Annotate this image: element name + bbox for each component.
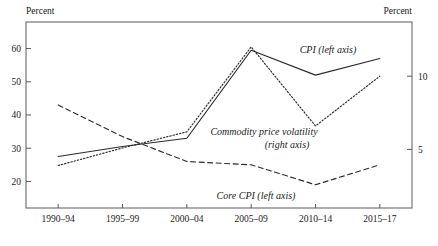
- chart-background: [0, 0, 438, 246]
- left-tick-label: 60: [12, 44, 22, 54]
- series-annotation-label: (right axis): [265, 139, 310, 151]
- left-tick-label: 50: [12, 77, 22, 87]
- x-axis-category-label: 2005–09: [235, 214, 269, 224]
- x-axis-category-label: 2000–04: [170, 214, 204, 224]
- series-annotation-label: Commodity price volatility: [210, 126, 318, 137]
- left-axis-unit-label: Percent: [26, 6, 55, 16]
- series-annotation-label: Core CPI (left axis): [217, 190, 296, 202]
- left-tick-label: 20: [12, 177, 22, 187]
- left-tick-label: 40: [12, 110, 22, 120]
- x-axis-category-label: 2010–14: [299, 214, 333, 224]
- left-tick-label: 30: [12, 144, 22, 154]
- commodity-cpi-line-chart: Percent Percent 2030405060 510 1990–9419…: [0, 0, 438, 246]
- x-axis-category-label: 1995–99: [106, 214, 140, 224]
- right-tick-label: 10: [418, 72, 428, 82]
- x-axis-category-label: 1990–94: [42, 214, 76, 224]
- x-axis-category-label: 2015–17: [363, 214, 397, 224]
- right-tick-label: 5: [418, 145, 423, 155]
- chart-container: Percent Percent 2030405060 510 1990–9419…: [0, 0, 438, 246]
- series-annotation-label: CPI (left axis): [300, 44, 357, 56]
- right-axis-unit-label: Percent: [384, 6, 413, 16]
